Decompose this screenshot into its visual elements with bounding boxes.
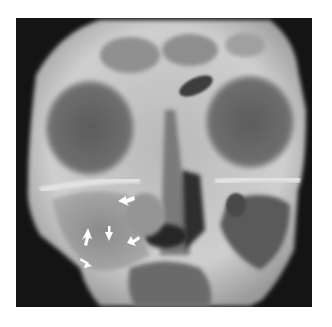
right-orbit	[45, 80, 135, 176]
xray-image	[16, 18, 312, 307]
left-orbit	[205, 75, 295, 169]
arrow-shaft	[108, 226, 111, 234]
skull-radiograph	[16, 18, 312, 307]
